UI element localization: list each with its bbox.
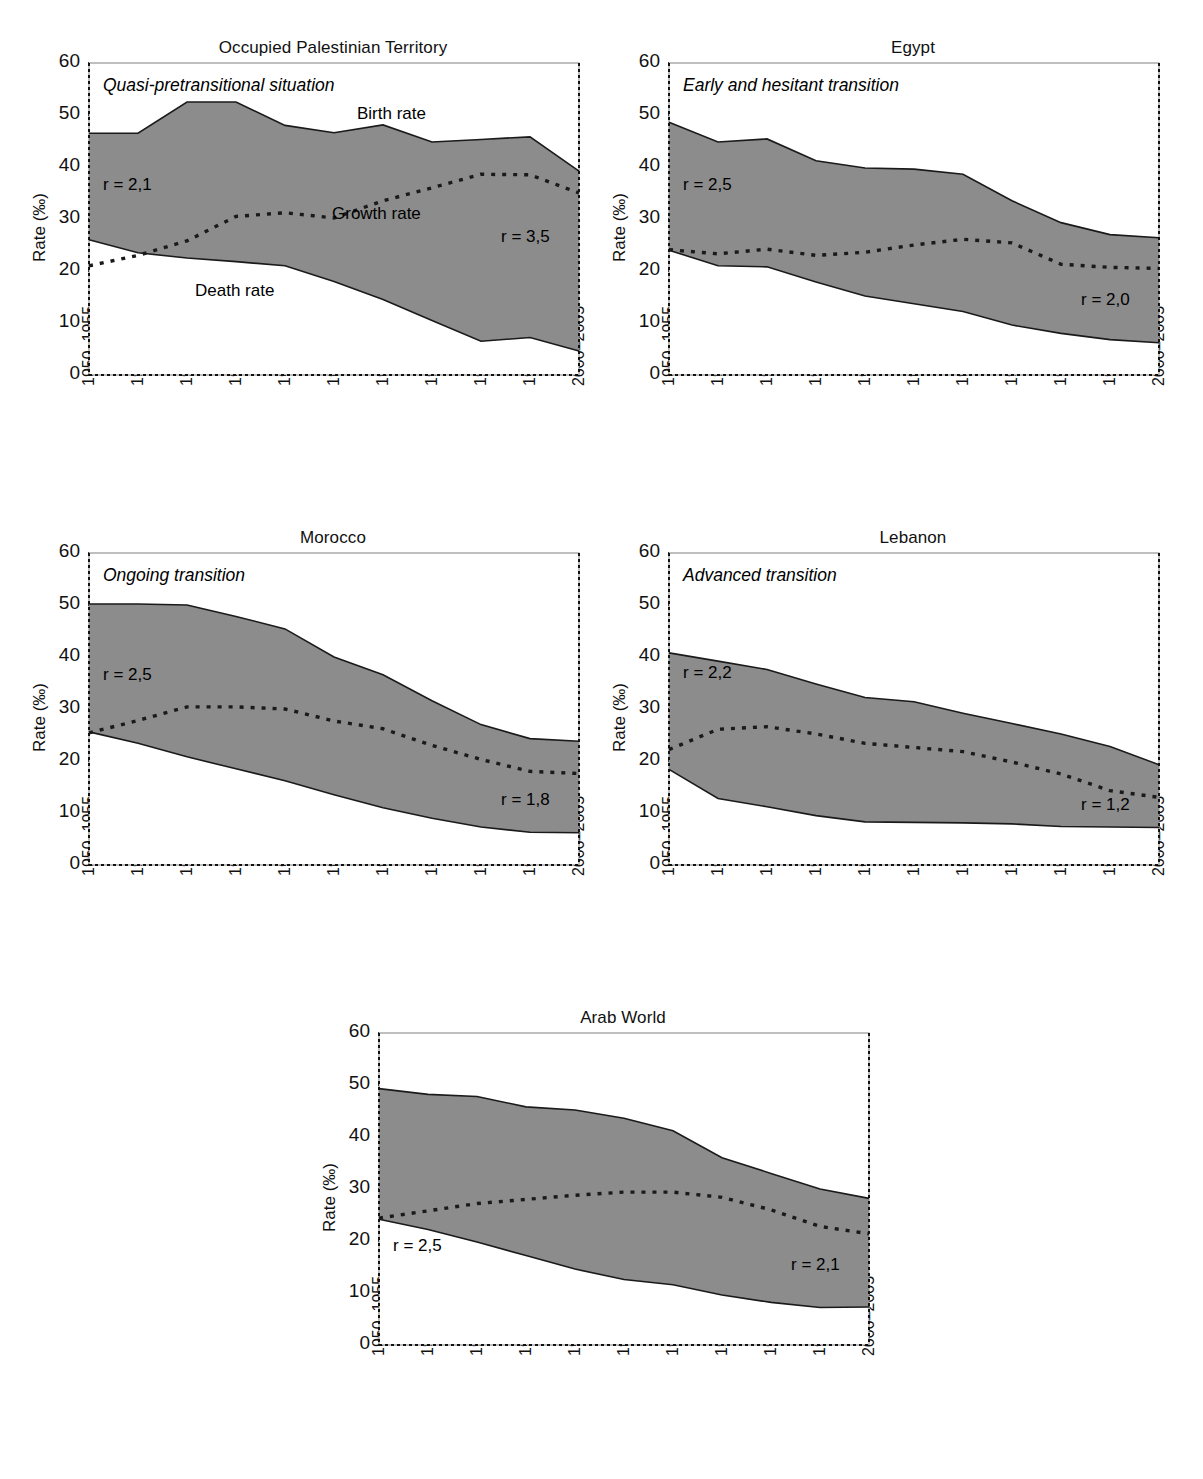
y-tick-label: 20	[330, 1228, 370, 1250]
y-tick-label: 40	[620, 154, 660, 176]
y-tick-label: 50	[620, 102, 660, 124]
y-tick-label: 10	[620, 800, 660, 822]
y-tick-label: 10	[330, 1280, 370, 1302]
panel-title: Occupied Palestinian Territory	[88, 38, 578, 58]
plot-area: Quasi-pretransitional situationr = 2,1r …	[88, 62, 580, 376]
y-tick-label: 60	[330, 1020, 370, 1042]
situation-label: Early and hesitant transition	[683, 75, 899, 95]
y-tick-label: 0	[40, 362, 80, 384]
growth-rate-start-annotation: r = 2,5	[683, 175, 732, 194]
y-tick-label: 0	[330, 1332, 370, 1354]
y-tick-label: 50	[620, 592, 660, 614]
y-tick-label: 20	[40, 258, 80, 280]
y-tick-label: 60	[40, 50, 80, 72]
growth-rate-end-annotation: r = 2,1	[791, 1255, 840, 1274]
panel-title: Morocco	[88, 528, 578, 548]
situation-label: Advanced transition	[682, 565, 837, 585]
y-tick-label: 60	[620, 50, 660, 72]
y-tick-label: 40	[330, 1124, 370, 1146]
growth-rate-end-annotation: r = 3,5	[501, 227, 550, 246]
y-tick-label: 20	[40, 748, 80, 770]
y-tick-label: 40	[40, 154, 80, 176]
y-tick-label: 30	[40, 696, 80, 718]
y-tick-label: 50	[40, 102, 80, 124]
y-tick-label: 30	[40, 206, 80, 228]
panel-title: Lebanon	[668, 528, 1158, 548]
y-tick-label: 50	[40, 592, 80, 614]
plot-area: Early and hesitant transitionr = 2,5r = …	[668, 62, 1160, 376]
y-tick-label: 40	[40, 644, 80, 666]
situation-label: Ongoing transition	[103, 565, 245, 585]
y-tick-label: 50	[330, 1072, 370, 1094]
growth-rate-start-annotation: r = 2,2	[683, 663, 732, 682]
y-tick-label: 10	[40, 800, 80, 822]
y-tick-label: 0	[620, 362, 660, 384]
situation-label: Quasi-pretransitional situation	[103, 75, 335, 95]
y-tick-label: 20	[620, 748, 660, 770]
y-tick-label: 30	[620, 696, 660, 718]
y-tick-label: 40	[620, 644, 660, 666]
growth-rate-start-annotation: r = 2,5	[103, 665, 152, 684]
growth-rate-series-label: Growth rate	[332, 204, 421, 223]
panel-title: Egypt	[668, 38, 1158, 58]
y-tick-label: 10	[40, 310, 80, 332]
y-tick-label: 0	[40, 852, 80, 874]
death-rate-series-label: Death rate	[195, 281, 274, 300]
birth-rate-series-label: Birth rate	[357, 104, 426, 123]
growth-rate-start-annotation: r = 2,1	[103, 175, 152, 194]
plot-area: r = 2,5r = 2,1	[378, 1032, 870, 1346]
growth-rate-start-annotation: r = 2,5	[393, 1236, 442, 1255]
growth-rate-end-annotation: r = 2,0	[1081, 290, 1130, 309]
panel-title: Arab World	[378, 1008, 868, 1028]
y-tick-label: 30	[330, 1176, 370, 1198]
y-tick-label: 10	[620, 310, 660, 332]
growth-rate-end-annotation: r = 1,8	[501, 790, 550, 809]
y-tick-label: 0	[620, 852, 660, 874]
y-tick-label: 20	[620, 258, 660, 280]
plot-area: Advanced transitionr = 2,2r = 1,2	[668, 552, 1160, 866]
y-tick-label: 30	[620, 206, 660, 228]
plot-area: Ongoing transitionr = 2,5r = 1,8	[88, 552, 580, 866]
y-tick-label: 60	[620, 540, 660, 562]
growth-rate-end-annotation: r = 1,2	[1081, 795, 1130, 814]
y-tick-label: 60	[40, 540, 80, 562]
